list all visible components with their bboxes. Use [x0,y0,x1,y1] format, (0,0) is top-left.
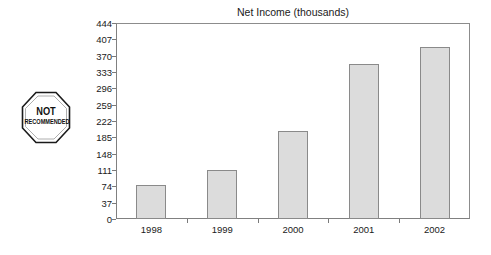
x-axis-tick-mark [399,219,400,223]
y-axis-tick-label: 407 [72,35,112,45]
y-axis-tick-label: 0 [72,215,112,225]
bar [420,47,450,219]
y-axis-tick-mark [112,219,116,220]
y-axis-tick-mark [112,23,116,24]
y-axis: 03774111148185222259296333370407444 [70,23,112,219]
y-axis-tick-mark [112,154,116,155]
x-axis-tick-label: 2000 [258,224,329,235]
x-axis-tick-mark [328,219,329,223]
y-axis-tick-label: 444 [72,19,112,29]
y-axis-tick-label: 148 [72,149,112,159]
y-axis-tick-mark [112,88,116,89]
x-axis-tick-mark [187,219,188,223]
x-axis-tick-mark [258,219,259,223]
y-axis-tick-label: 296 [72,84,112,94]
bar [136,185,166,219]
bar [207,170,237,219]
y-axis-tick-label: 222 [72,117,112,127]
x-axis-tick-label: 1999 [187,224,258,235]
y-axis-tick-mark [112,137,116,138]
y-axis-tick-mark [112,170,116,171]
bar [278,131,308,219]
y-axis-tick-label: 185 [72,133,112,143]
x-axis-tick-label: 1998 [116,224,187,235]
y-axis-tick-mark [112,105,116,106]
x-axis-tick-label: 2001 [328,224,399,235]
y-axis-tick-mark [112,56,116,57]
y-axis-tick-mark [112,39,116,40]
y-axis-tick-label: 111 [72,166,112,176]
bar-chart: 03774111148185222259296333370407444 1998… [0,0,491,255]
y-axis-tick-mark [112,72,116,73]
y-axis-tick-mark [112,121,116,122]
y-axis-tick-label: 74 [72,182,112,192]
y-axis-tick-label: 37 [72,198,112,208]
y-axis-tick-mark [112,203,116,204]
bar [349,64,379,219]
y-axis-tick-label: 259 [72,100,112,110]
y-axis-tick-label: 370 [72,51,112,61]
y-axis-tick-label: 333 [72,68,112,78]
y-axis-tick-mark [112,186,116,187]
x-axis-tick-label: 2002 [399,224,470,235]
